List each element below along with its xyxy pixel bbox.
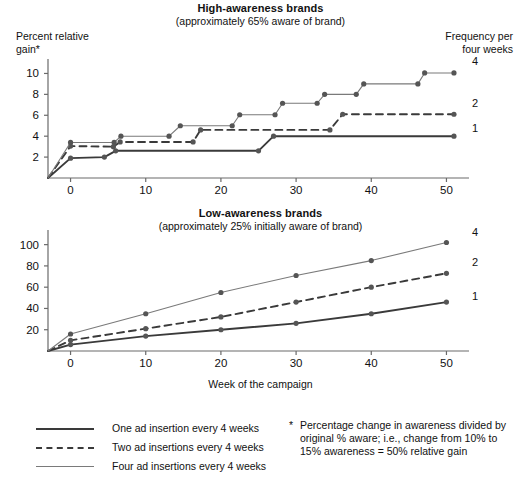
top-series-label-2: 2 — [472, 97, 478, 109]
legend-label: Two ad insertions every 4 weeks — [112, 439, 264, 455]
svg-text:20: 20 — [26, 324, 39, 336]
legend-label: One ad insertion every 4 weeks — [112, 420, 259, 436]
legend-swatch-four-ads-icon — [36, 466, 94, 470]
svg-text:0: 0 — [67, 184, 73, 196]
svg-text:30: 30 — [290, 357, 303, 369]
svg-text:80: 80 — [26, 260, 39, 272]
bottom-series-label-1: 1 — [472, 290, 478, 302]
legend-item: Four ad insertions every 4 weeks — [36, 458, 286, 477]
svg-text:2: 2 — [33, 151, 39, 163]
svg-text:60: 60 — [26, 281, 39, 293]
svg-text:50: 50 — [440, 184, 453, 196]
legend-item: Two ad insertions every 4 weeks — [36, 439, 286, 458]
svg-text:100: 100 — [20, 239, 39, 251]
bottom-series-label-2: 2 — [472, 256, 478, 268]
top-y-axis-caption: Percent relative gain* — [16, 30, 89, 55]
svg-text:10: 10 — [139, 357, 152, 369]
svg-text:20: 20 — [215, 357, 228, 369]
top-series-label-1: 1 — [472, 122, 478, 134]
frequency-per-four-weeks-caption: Frequency per four weeks — [445, 30, 513, 55]
bottom-chart-title: Low-awareness brands — [0, 207, 521, 219]
svg-text:40: 40 — [365, 357, 378, 369]
figure-root: High-awareness brands (approximately 65%… — [0, 0, 521, 478]
high-awareness-plot: 01020304050246810 — [0, 55, 521, 200]
svg-text:40: 40 — [26, 302, 39, 314]
svg-text:50: 50 — [440, 357, 453, 369]
svg-text:8: 8 — [33, 88, 39, 100]
svg-text:40: 40 — [365, 184, 378, 196]
svg-text:0: 0 — [67, 357, 73, 369]
legend-swatch-one-ad-icon — [36, 428, 94, 433]
top-chart-subtitle: (approximately 65% aware of brand) — [0, 15, 521, 27]
footnote: * Percentage change in awareness divided… — [289, 419, 517, 459]
bottom-series-label-4: 4 — [472, 226, 478, 238]
top-series-label-4: 4 — [472, 55, 478, 67]
footnote-text: Percentage change in awareness divided b… — [300, 419, 517, 459]
legend-swatch-two-ads-icon — [36, 447, 94, 452]
top-chart-title: High-awareness brands — [0, 2, 521, 14]
svg-text:20: 20 — [215, 184, 228, 196]
legend: One ad insertion every 4 weeks Two ad in… — [36, 420, 286, 477]
svg-text:10: 10 — [139, 184, 152, 196]
svg-text:10: 10 — [26, 67, 39, 79]
svg-text:4: 4 — [33, 130, 40, 142]
svg-text:30: 30 — [290, 184, 303, 196]
legend-item: One ad insertion every 4 weeks — [36, 420, 286, 439]
bottom-x-axis-label: Week of the campaign — [0, 378, 521, 390]
footnote-marker: * — [289, 419, 293, 432]
svg-text:6: 6 — [33, 109, 39, 121]
low-awareness-plot: 0102030405020406080100 — [0, 222, 521, 377]
legend-label: Four ad insertions every 4 weeks — [112, 458, 266, 474]
